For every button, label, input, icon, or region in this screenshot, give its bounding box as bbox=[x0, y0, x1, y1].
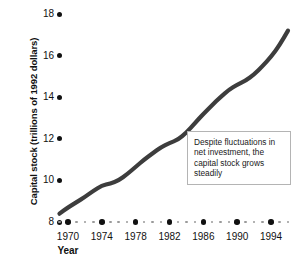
annotation-callout: Despite fluctuations in net investment, … bbox=[187, 131, 291, 185]
capital-stock-chart: Capital stock (trillions of 1992 dollars… bbox=[0, 0, 302, 274]
series-line-path bbox=[60, 31, 289, 214]
